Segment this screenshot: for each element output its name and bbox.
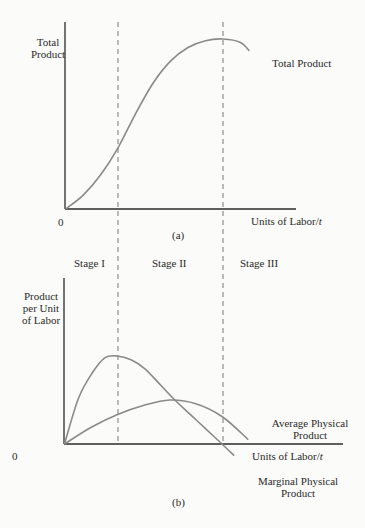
b-x-axis-label: Units of Labor/t — [252, 450, 323, 462]
a-origin-label: 0 — [58, 216, 64, 228]
app-label-line: Product — [262, 429, 358, 441]
mpp-label-line: Marginal Physical — [250, 475, 346, 487]
b-origin-label: 0 — [12, 450, 18, 462]
stage-2-label: Stage II — [152, 257, 187, 269]
b-y-axis-label-line: Product — [16, 290, 66, 302]
a-y-axis-label-line: Product — [28, 48, 68, 60]
b-y-axis-label-line: per Unit — [16, 302, 66, 314]
stage-3-label: Stage III — [240, 257, 278, 269]
mpp-label-line: Product — [250, 487, 346, 499]
b-caption: (b) — [172, 496, 185, 508]
a-y-axis-label: Total Product — [28, 36, 68, 60]
average-physical-product-curve — [65, 400, 249, 444]
a-y-axis-label-line: Total — [28, 36, 68, 48]
b-x-axis-label-t: t — [320, 450, 323, 462]
marginal-physical-product-curve — [65, 356, 235, 456]
b-x-axis-label-text: Units of Labor/ — [252, 450, 320, 462]
stage-1-label: Stage I — [74, 257, 105, 269]
a-x-axis-label-text: Units of Labor/ — [251, 215, 319, 227]
a-caption: (a) — [172, 229, 184, 241]
b-y-axis-label-line: of Labor — [16, 314, 66, 326]
app-label-line: Average Physical — [262, 417, 358, 429]
mpp-label: Marginal Physical Product — [250, 475, 346, 499]
total-product-label: Total Product — [272, 57, 331, 69]
a-x-axis-label: Units of Labor/t — [251, 215, 322, 227]
total-product-curve — [66, 39, 250, 209]
app-label: Average Physical Product — [262, 417, 358, 441]
a-x-axis-label-t: t — [319, 215, 322, 227]
b-y-axis-label: Product per Unit of Labor — [16, 290, 66, 326]
